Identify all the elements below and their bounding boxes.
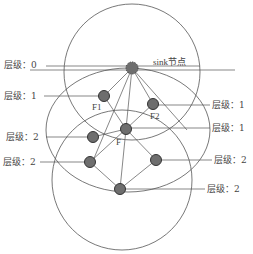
node-level2-c bbox=[151, 155, 162, 166]
right-level-2b: 层级：2 bbox=[207, 183, 240, 194]
label-sink: sink节点 bbox=[153, 57, 186, 67]
node-level2-b bbox=[85, 157, 96, 168]
label-F: F bbox=[116, 137, 121, 147]
node-F1 bbox=[99, 91, 110, 102]
left-level-1: 层级：1 bbox=[4, 90, 37, 101]
right-level-2a: 层级：2 bbox=[214, 154, 247, 165]
right-level-1a: 层级：1 bbox=[212, 99, 245, 110]
label-F1: F1 bbox=[92, 102, 102, 112]
right-level-1b: 层级：1 bbox=[212, 122, 245, 133]
node-F2 bbox=[148, 99, 159, 110]
node-F bbox=[121, 124, 132, 135]
left-level-2b: 层级：2 bbox=[3, 156, 36, 167]
edges bbox=[90, 68, 187, 189]
sink-node bbox=[126, 62, 138, 74]
node-level2-a bbox=[88, 132, 99, 143]
left-level-0: 层级：0 bbox=[4, 59, 37, 70]
node-level2-d bbox=[115, 184, 126, 195]
wsn-level-diagram: sink节点 F1 F2 F 层级：0 层级：1 层级：2 层级：2 层级：1 … bbox=[0, 0, 253, 254]
label-F2: F2 bbox=[150, 111, 160, 121]
left-level-2a: 层级：2 bbox=[6, 131, 39, 142]
